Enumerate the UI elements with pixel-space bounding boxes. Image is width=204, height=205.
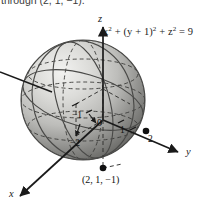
point-2-1-neg1 — [100, 165, 107, 172]
sphere-equation-label: x2 + (y + 1)2 + z2 = 9 — [103, 26, 193, 37]
eqn-plus-2: + — [156, 26, 167, 37]
point-coordinate-label: (2, 1, −1) — [82, 174, 119, 185]
tick-label-1: 1 — [120, 125, 125, 135]
eqn-plus-1: + ( — [112, 26, 127, 37]
sphere-coordinate-figure: through (2, 1, −1). — [0, 0, 204, 205]
tick-label-neg2: −2 — [70, 138, 80, 148]
z-axis-label: z — [98, 13, 102, 24]
y-axis-label: y — [186, 146, 191, 157]
tick-label-2: 2 — [148, 134, 153, 144]
x-axis-label: x — [9, 188, 14, 199]
eqn-equals: = 9 — [176, 26, 193, 37]
tick-label-neg1: −1 — [72, 110, 82, 120]
eqn-plus-one: + 1) — [132, 26, 152, 37]
tick-label-0: 0 — [97, 118, 102, 128]
